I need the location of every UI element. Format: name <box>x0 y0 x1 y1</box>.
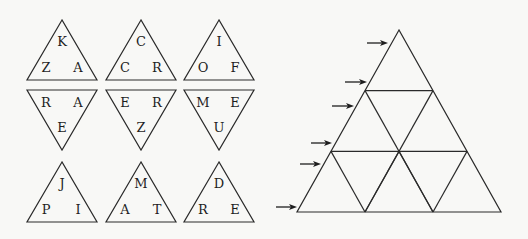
puzzle-figure: KZACCRIOFRAEERZMEUJPIMATDRE <box>0 0 528 239</box>
board-outline <box>297 30 501 212</box>
board-diagonal <box>433 151 467 212</box>
arrow-icon <box>367 40 388 46</box>
arrow-icon <box>276 204 297 210</box>
board-grid <box>297 30 501 212</box>
triangle-board <box>0 0 528 239</box>
arrow-icon <box>332 103 354 109</box>
board-diagonal <box>399 151 433 212</box>
board-diagonal <box>331 151 365 212</box>
board-diagonal <box>365 151 399 212</box>
arrow-icon <box>345 79 367 85</box>
arrow-icon <box>311 140 332 146</box>
arrow-icon <box>300 161 321 167</box>
